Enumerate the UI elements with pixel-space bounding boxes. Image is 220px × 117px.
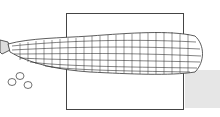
kernel-icon xyxy=(24,82,32,89)
corn-cob-illustration xyxy=(0,0,220,117)
kernel-icon xyxy=(8,79,16,86)
loose-kernels xyxy=(8,73,32,89)
kernel-icon xyxy=(16,73,24,80)
